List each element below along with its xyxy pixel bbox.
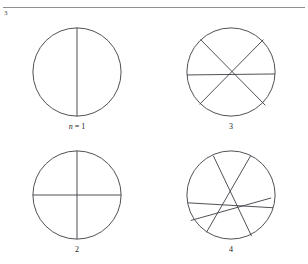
figure-panel-2: 2 (0, 141, 154, 264)
panel-label-4: 4 (229, 245, 233, 255)
circle-diagram-3-chords (177, 23, 285, 121)
header-rule (3, 7, 305, 8)
panel-label-value: 4 (229, 245, 233, 254)
circle-diagram-1-chord (23, 23, 131, 121)
panel-label-value: 2 (75, 245, 79, 254)
chord (188, 203, 273, 208)
chord (191, 198, 271, 221)
running-head (0, 0, 308, 3)
chord (213, 156, 251, 236)
chord (200, 40, 264, 105)
panel-label-value: 3 (229, 122, 233, 131)
panel-label-value: 1 (81, 122, 85, 131)
panel-label-2: 2 (75, 245, 79, 255)
figure-panel-1: n = 1 (0, 18, 154, 141)
panel-label-equals: = (73, 122, 82, 131)
circle-division-figure: n = 1 3 2 (0, 18, 308, 264)
page-number: 3 (4, 9, 8, 18)
circle-diagram-4-chords (177, 146, 285, 244)
panel-label-3: 3 (229, 122, 233, 132)
chord (201, 40, 266, 106)
chord (187, 74, 275, 75)
panel-label-1: n = 1 (69, 122, 86, 132)
circle-diagram-2-chords (23, 146, 131, 244)
figure-panel-3: 3 (154, 18, 308, 141)
circle-outline (187, 151, 275, 239)
figure-panel-4: 4 (154, 141, 308, 264)
